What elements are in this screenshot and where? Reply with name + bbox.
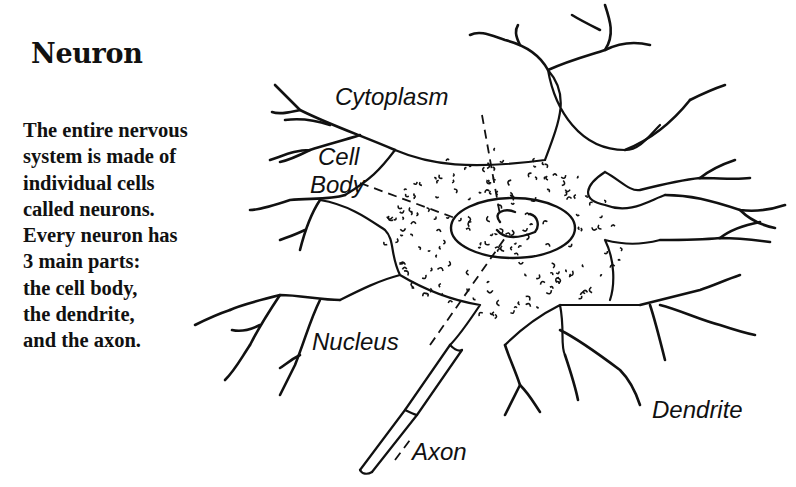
cytoplasm-speckle bbox=[525, 213, 529, 215]
cytoplasm-speckle bbox=[550, 287, 553, 289]
cytoplasm-speckle bbox=[436, 196, 439, 198]
cytoplasm-speckle bbox=[526, 296, 530, 300]
cytoplasm-speckle bbox=[478, 247, 480, 248]
cytoplasm-speckle bbox=[508, 180, 511, 185]
cytoplasm-speckle bbox=[465, 168, 467, 170]
cytoplasm-speckle bbox=[497, 300, 500, 306]
cytoplasm-speckle bbox=[501, 246, 505, 251]
cytoplasm-speckle bbox=[400, 210, 404, 213]
cytoplasm-speckle bbox=[454, 189, 457, 193]
cytoplasm-speckle bbox=[395, 238, 398, 242]
cytoplasm-speckle bbox=[402, 217, 403, 220]
cytoplasm-speckle bbox=[468, 198, 470, 200]
cytoplasm-speckle bbox=[620, 248, 622, 251]
cytoplasm-speckle bbox=[564, 191, 567, 195]
cytoplasm-speckle bbox=[483, 167, 485, 172]
cytoplasm-speckle bbox=[514, 253, 518, 255]
cytoplasm-speckle bbox=[537, 306, 539, 308]
cytoplasm-speckle bbox=[598, 225, 601, 229]
cell-body-leader bbox=[360, 183, 455, 218]
cytoplasm-speckle bbox=[413, 182, 417, 184]
cytoplasm-speckle bbox=[453, 173, 454, 176]
cytoplasm-speckle bbox=[439, 284, 441, 287]
cytoplasm-speckle bbox=[556, 271, 559, 273]
cytoplasm-speckle bbox=[439, 246, 440, 249]
cytoplasm-speckle bbox=[404, 271, 408, 276]
cytoplasm-speckle bbox=[525, 274, 527, 276]
cytoplasm-speckle bbox=[526, 304, 531, 307]
cytoplasm-speckle bbox=[489, 180, 492, 183]
label-cell-body-line1: Cell bbox=[318, 143, 360, 170]
cytoplasm-speckle bbox=[416, 213, 418, 216]
cytoplasm-speckle bbox=[402, 267, 406, 269]
cytoplasm-speckle bbox=[434, 217, 436, 220]
cytoplasm-speckle bbox=[493, 167, 495, 171]
cytoplasm-speckle bbox=[500, 160, 504, 162]
cytoplasm-speckle bbox=[526, 234, 529, 240]
cytoplasm-speckle bbox=[422, 275, 426, 279]
axon-leader bbox=[395, 440, 410, 460]
cytoplasm-speckle bbox=[552, 263, 555, 268]
cytoplasm-speckle bbox=[547, 189, 550, 192]
cytoplasm-speckle bbox=[414, 193, 416, 196]
cytoplasm-speckle bbox=[589, 287, 592, 293]
cytoplasm-speckle bbox=[561, 175, 566, 178]
cytoplasm-speckle bbox=[604, 251, 607, 254]
cytoplasm-speckle bbox=[387, 217, 393, 220]
cytoplasm-speckle bbox=[446, 217, 449, 218]
cytoplasm-speckle bbox=[414, 197, 416, 199]
cytoplasm-speckle bbox=[398, 205, 402, 208]
cytoplasm-speckle bbox=[485, 241, 489, 245]
cytoplasm-speckle bbox=[468, 222, 471, 227]
cytoplasm-speckle bbox=[543, 221, 547, 225]
cytoplasm-speckle bbox=[494, 148, 495, 150]
cytoplasm-speckle bbox=[437, 230, 441, 232]
cytoplasm-speckle bbox=[406, 194, 409, 197]
cytoplasm-speckle bbox=[546, 244, 550, 247]
cytoplasm-speckle bbox=[511, 203, 514, 204]
cytoplasm-speckle bbox=[536, 274, 540, 278]
cytoplasm-speckle bbox=[479, 192, 481, 193]
cytoplasm-speckle bbox=[443, 240, 445, 244]
cytoplasm-speckle bbox=[578, 227, 579, 230]
cytoplasm-speckle bbox=[479, 313, 483, 317]
cytoplasm-speckle bbox=[498, 250, 500, 252]
label-axon: Axon bbox=[410, 438, 467, 465]
cytoplasm-speckle bbox=[466, 228, 470, 230]
cytoplasm-speckle bbox=[569, 271, 573, 276]
cytoplasm-speckle bbox=[518, 302, 520, 305]
cytoplasm-speckle bbox=[611, 225, 615, 227]
cytoplasm-speckle bbox=[566, 270, 567, 272]
cytoplasm-speckle bbox=[579, 296, 582, 299]
nucleus-leader bbox=[430, 238, 505, 345]
cytoplasm-speckle bbox=[576, 214, 579, 216]
label-nucleus: Nucleus bbox=[312, 328, 399, 355]
cytoplasm-speckle bbox=[514, 307, 517, 308]
cytoplasm-speckle bbox=[553, 174, 557, 176]
cytoplasm-speckle bbox=[534, 165, 536, 166]
cytoplasm-speckle bbox=[495, 233, 498, 234]
cytoplasm-speckle bbox=[546, 176, 548, 180]
cytoplasm-speckle bbox=[568, 244, 571, 247]
dendrites bbox=[195, 5, 785, 415]
cytoplasm-speckle bbox=[604, 200, 606, 202]
cytoplasm-speckle bbox=[618, 260, 620, 261]
cytoplasm-speckle bbox=[437, 181, 439, 184]
cytoplasm-speckle bbox=[411, 222, 416, 224]
cytoplasm-speckle bbox=[540, 282, 544, 285]
cytoplasm-speckle bbox=[487, 290, 493, 292]
cytoplasm-speckle bbox=[511, 230, 514, 236]
cytoplasm-speckle bbox=[580, 292, 585, 295]
cytoplasm-speckle bbox=[400, 228, 405, 231]
cytoplasm-speckle bbox=[546, 290, 551, 294]
cytoplasm-speckle bbox=[430, 268, 432, 271]
cytoplasm-speckle bbox=[490, 233, 493, 235]
cytoplasm-speckle bbox=[590, 202, 593, 205]
cytoplasm-speckle bbox=[401, 234, 403, 235]
cytoplasm-speckle bbox=[562, 180, 565, 185]
cytoplasm-speckle bbox=[439, 175, 442, 179]
cytoplasm-speckle bbox=[427, 208, 430, 212]
cytoplasm-speckle bbox=[514, 243, 516, 244]
cytoplasm-speckles bbox=[384, 148, 622, 318]
cytoplasm-speckle bbox=[410, 234, 412, 236]
